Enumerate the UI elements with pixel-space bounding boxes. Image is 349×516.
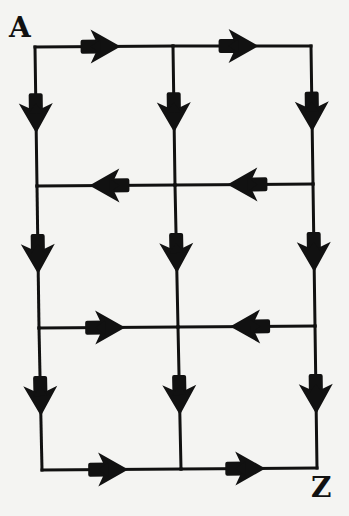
arrow-left-icon: [230, 309, 270, 343]
arrow-down-icon: [297, 232, 332, 272]
arrow-right-icon: [80, 29, 120, 63]
arrow-down-icon: [21, 234, 56, 274]
arrow-down-icon: [23, 376, 58, 417]
arrow-right-icon: [85, 310, 125, 344]
arrows-layer: [19, 29, 334, 487]
arrow-down-icon: [159, 233, 194, 274]
arrow-right-icon: [88, 452, 128, 486]
arrow-left-icon: [227, 167, 267, 201]
arrow-down-icon: [157, 92, 192, 132]
end-label-z: Z: [311, 474, 331, 502]
arrow-down-icon: [299, 374, 334, 414]
grid-path-diagram: [0, 0, 349, 516]
arrow-right-icon: [225, 451, 265, 485]
arrow-left-icon: [89, 168, 129, 202]
arrow-right-icon: [219, 29, 259, 63]
arrow-down-icon: [162, 375, 197, 416]
arrow-down-icon: [295, 91, 330, 131]
arrow-down-icon: [19, 93, 54, 133]
start-label-a: A: [9, 14, 31, 42]
